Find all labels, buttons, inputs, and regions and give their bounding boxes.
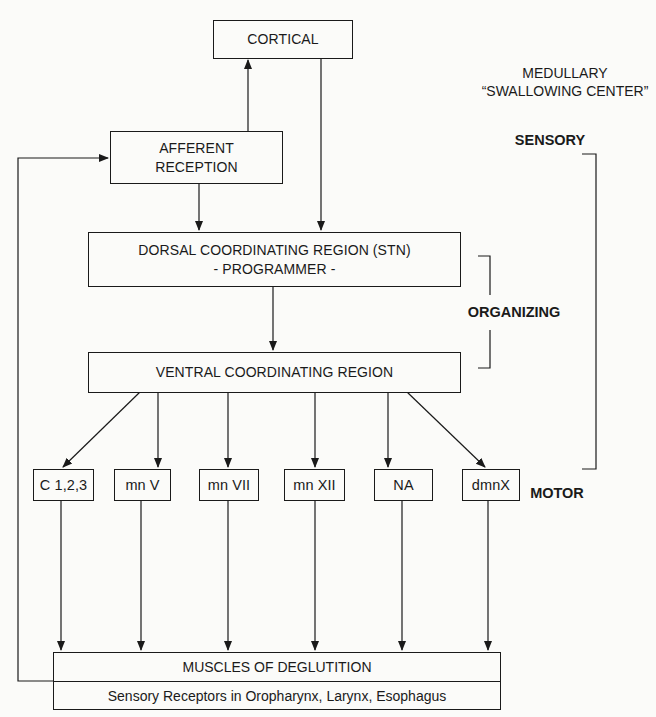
- node-cortical-label: CORTICAL: [247, 30, 318, 49]
- node-afferent-line1: AFFERENT: [159, 139, 234, 158]
- node-ventral-coordinating-region: VENTRAL COORDINATING REGION: [88, 352, 461, 393]
- node-dorsal-coordinating-region: DORSAL COORDINATING REGION (STN) - PROGR…: [88, 232, 461, 287]
- node-afferent-line2: RECEPTION: [155, 158, 238, 177]
- phase-sensory-label: SENSORY: [500, 131, 600, 149]
- node-cortical: CORTICAL: [213, 20, 353, 59]
- node-motor-mnxii-label: mn XII: [293, 476, 336, 495]
- node-motor-mnvii-label: mn VII: [208, 476, 251, 495]
- node-motor-mnxii: mn XII: [284, 469, 345, 501]
- node-motor-na-label: NA: [393, 476, 413, 495]
- title-line2: “SWALLOWING CENTER”: [470, 82, 656, 100]
- node-motor-c123-label: C 1,2,3: [40, 476, 87, 495]
- node-motor-dmnx-label: dmnX: [472, 476, 510, 495]
- node-dorsal-line2: - PROGRAMMER -: [214, 260, 336, 279]
- node-afferent-reception: AFFERENT RECEPTION: [110, 131, 283, 184]
- node-motor-dmnx: dmnX: [462, 469, 520, 501]
- muscles-label: MUSCLES OF DEGLUTITION: [54, 653, 500, 681]
- node-muscles-of-deglutition: MUSCLES OF DEGLUTITION Sensory Receptors…: [53, 652, 501, 710]
- node-motor-c123: C 1,2,3: [33, 469, 94, 501]
- phase-organizing-label: ORGANIZING: [455, 303, 573, 321]
- sensory-receptors-label: Sensory Receptors in Oropharynx, Larynx,…: [54, 681, 500, 709]
- title-line1: MEDULLARY: [470, 64, 656, 82]
- node-motor-na: NA: [374, 469, 433, 501]
- node-motor-mnv: mn V: [114, 469, 171, 501]
- phase-motor-label: MOTOR: [522, 484, 592, 502]
- node-motor-mnv-label: mn V: [125, 476, 159, 495]
- medullary-swallowing-center-title: MEDULLARY “SWALLOWING CENTER”: [470, 64, 656, 100]
- node-dorsal-line1: DORSAL COORDINATING REGION (STN): [138, 241, 410, 260]
- node-ventral-label: VENTRAL COORDINATING REGION: [156, 363, 394, 382]
- node-motor-mnvii: mn VII: [199, 469, 259, 501]
